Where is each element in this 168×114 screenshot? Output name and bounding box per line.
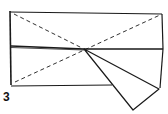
step-number: 3 — [3, 90, 10, 104]
right-edge-bottom — [160, 49, 163, 88]
top-edge — [10, 12, 162, 14]
right-edge-top — [162, 14, 163, 49]
left-edge — [10, 11, 11, 85]
folding-diagram — [0, 0, 168, 114]
folded-flap — [84, 49, 159, 110]
bottom-edge — [11, 85, 112, 86]
dashed-diagonal-1 — [14, 14, 82, 48]
